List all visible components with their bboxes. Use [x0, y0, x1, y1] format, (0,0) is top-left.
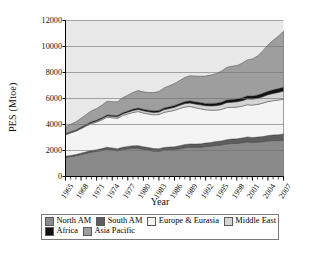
x-axis-title: Year [0, 196, 320, 207]
legend-swatch-icon [96, 217, 105, 226]
legend-label: Middle East [235, 217, 276, 225]
legend-row: North AMSouth AMEurope & EurasiaMiddle E… [45, 217, 275, 226]
y-tick-label: 2000 [20, 146, 62, 155]
legend-label: Africa [57, 227, 78, 235]
legend-swatch-icon [45, 217, 54, 226]
y-tick-label: 8000 [20, 68, 62, 77]
legend-swatch-icon [224, 217, 233, 226]
y-tick-label: 10000 [20, 42, 62, 51]
legend-item-north-am[interactable]: North AM [45, 217, 91, 226]
chart-container: PES (Mtoe) 020004000600080001000012000 1… [0, 0, 320, 261]
legend-swatch-icon [83, 227, 92, 236]
legend-label: South AM [108, 217, 143, 225]
legend-item-europe-eurasia[interactable]: Europe & Eurasia [147, 217, 219, 226]
legend-item-asia-pacific[interactable]: Asia Pacific [83, 227, 135, 236]
legend-label: Asia Pacific [94, 227, 135, 235]
legend-item-africa[interactable]: Africa [45, 227, 78, 236]
legend-label: Europe & Eurasia [159, 217, 219, 225]
legend-item-middle-east[interactable]: Middle East [224, 217, 276, 226]
legend-swatch-icon [147, 217, 156, 226]
y-tick-label: 6000 [20, 94, 62, 103]
y-tick-label: 12000 [20, 16, 62, 25]
y-tick-label: 0 [20, 172, 62, 181]
y-tick-label: 4000 [20, 120, 62, 129]
legend-swatch-icon [45, 227, 54, 236]
legend-label: North AM [57, 217, 92, 225]
legend-item-south-am[interactable]: South AM [96, 217, 142, 226]
legend-row: AfricaAsia Pacific [45, 227, 275, 236]
chart-legend: North AMSouth AMEurope & EurasiaMiddle E… [41, 214, 279, 240]
